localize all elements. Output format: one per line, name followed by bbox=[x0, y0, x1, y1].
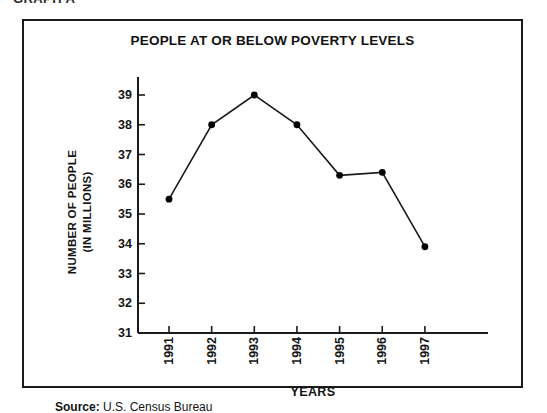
y-axis-tick-label: 36 bbox=[106, 177, 132, 191]
data-point-marker bbox=[336, 172, 343, 179]
line-chart-svg bbox=[137, 77, 489, 334]
source-value: U.S. Census Bureau bbox=[103, 400, 212, 413]
x-axis-tick-label: 1994 bbox=[289, 337, 305, 381]
x-axis-tick-label: 1991 bbox=[161, 337, 177, 381]
source-note: Source: U.S. Census Bureau bbox=[55, 400, 212, 413]
y-axis-title-line2: (IN MILLIONS) bbox=[81, 171, 93, 252]
x-axis-title: YEARS bbox=[137, 385, 489, 399]
y-axis-tick-label: 31 bbox=[106, 326, 132, 340]
plot-area bbox=[137, 77, 489, 334]
x-axis-tick-label: 1997 bbox=[417, 337, 433, 381]
chart-title: PEOPLE AT OR BELOW POVERTY LEVELS bbox=[24, 33, 521, 48]
data-point-marker bbox=[208, 121, 215, 128]
x-axis-tick-label: 1993 bbox=[246, 337, 262, 381]
y-axis-title: NUMBER OF PEOPLE (IN MILLIONS) bbox=[60, 127, 100, 297]
x-axis-tick-label: 1992 bbox=[204, 337, 220, 381]
y-axis-tick-label: 37 bbox=[106, 148, 132, 162]
y-axis-title-line1: NUMBER OF PEOPLE bbox=[66, 150, 78, 274]
axis-lines bbox=[138, 77, 488, 333]
data-point-marker bbox=[379, 169, 386, 176]
y-axis-ticks bbox=[138, 95, 145, 333]
y-axis-tick-label: 35 bbox=[106, 207, 132, 221]
data-point-markers bbox=[166, 92, 429, 251]
data-point-marker bbox=[294, 121, 301, 128]
x-axis-tick-label: 1995 bbox=[332, 337, 348, 381]
x-axis-tick-labels: 1991199219931994199519961997 bbox=[137, 337, 489, 385]
data-series-line bbox=[169, 95, 425, 247]
y-axis-tick-label: 32 bbox=[106, 296, 132, 310]
clipped-figure-label: GRAPH A bbox=[13, 0, 75, 6]
data-point-marker bbox=[421, 243, 428, 250]
x-axis-ticks bbox=[169, 326, 425, 333]
y-axis-tick-label: 38 bbox=[106, 118, 132, 132]
x-axis-tick-label: 1996 bbox=[374, 337, 390, 381]
y-axis-tick-label: 39 bbox=[106, 88, 132, 102]
y-axis-tick-labels: 313233343536373839 bbox=[102, 77, 132, 334]
y-axis-tick-label: 33 bbox=[106, 267, 132, 281]
source-label: Source: bbox=[55, 400, 100, 413]
data-point-marker bbox=[251, 92, 258, 99]
data-point-marker bbox=[166, 196, 173, 203]
y-axis-tick-label: 34 bbox=[106, 237, 132, 251]
chart-frame: PEOPLE AT OR BELOW POVERTY LEVELS NUMBER… bbox=[22, 19, 523, 388]
